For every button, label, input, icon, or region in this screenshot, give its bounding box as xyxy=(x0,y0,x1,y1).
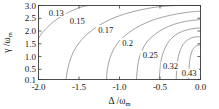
contour-label: 0.2 xyxy=(122,38,133,48)
y-axis-title-subscript: m xyxy=(6,32,13,37)
y-tick-label: 2.5 xyxy=(25,13,37,23)
y-tick-label: 1.5 xyxy=(25,39,37,49)
y-tick-label: 3.0 xyxy=(25,1,37,11)
y-tick-labels-group: 0.10.51.01.52.02.53.0 xyxy=(25,1,37,85)
axis-titles-group: Δ /ωmγ /ωm xyxy=(2,32,130,107)
contour-plot-figure: -2.0-1.5-1.0-0.50.0 0.10.51.01.52.02.53.… xyxy=(0,0,219,109)
plot-canvas: -2.0-1.5-1.0-0.50.0 0.10.51.01.52.02.53.… xyxy=(0,0,219,109)
y-tick-label: 2.0 xyxy=(25,26,37,36)
contour-label: 0.15 xyxy=(70,16,85,26)
x-axis-title: Δ /ωm xyxy=(109,96,131,107)
y-tick-label: 0.1 xyxy=(25,75,36,85)
y-tick-label: 1.0 xyxy=(25,52,37,62)
x-tick-labels-group: -2.0-1.5-1.0-0.50.0 xyxy=(31,82,206,92)
contour-label: 0.13 xyxy=(49,8,64,18)
y-axis-title: γ /ωm xyxy=(2,32,13,53)
x-axis-title-main: Δ /ω xyxy=(109,96,126,106)
x-axis-title-subscript: m xyxy=(125,100,130,107)
x-tick-label: -1.5 xyxy=(72,82,87,92)
contour-label: 0.17 xyxy=(98,25,114,35)
x-tick-label: -0.5 xyxy=(153,82,168,92)
contour-labels-group: 0.130.150.170.20.250.320.43 xyxy=(47,8,199,79)
contour-label: 0.25 xyxy=(143,50,158,60)
x-tick-label: 0.0 xyxy=(195,82,207,92)
y-axis-title-main: γ /ω xyxy=(2,37,12,53)
contour-label: 0.32 xyxy=(163,61,178,71)
x-tick-label: -1.0 xyxy=(112,82,127,92)
y-tick-label: 0.5 xyxy=(25,64,37,74)
contour-label: 0.43 xyxy=(182,68,197,78)
